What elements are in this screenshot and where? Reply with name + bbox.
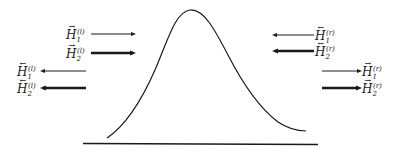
label-right-transmitted-2: →H2(r) [362,83,382,98]
arrow-left-reflected-2 [40,86,86,91]
baseline [83,144,318,145]
arrow-right-transmitted-2 [322,86,362,91]
vector-arrow-icon: → [362,60,372,68]
arrow-left-incident-1 [91,32,136,36]
vector-arrow-icon: ← [315,40,325,48]
vector-arrow-icon: ← [17,60,27,68]
vector-arrow-icon: → [66,42,76,50]
vector-arrow-icon: ← [17,77,27,85]
label-left-reflected-2: ←H2(l) [17,83,36,98]
label-right-incident-2: ←H2(r) [315,46,335,61]
barrier-curve [107,10,306,138]
arrow-right-transmitted-1 [322,69,362,73]
label-left-incident-2: →H2(l) [66,48,85,63]
arrow-right-incident-1 [272,33,314,37]
arrow-left-reflected-1 [40,69,86,73]
barrier-diagram [0,0,401,152]
arrow-left-incident-2 [91,51,136,56]
vector-arrow-icon: → [66,23,76,31]
vector-arrow-icon: → [362,77,372,85]
vector-arrow-icon: ← [315,24,325,32]
arrow-right-incident-2 [272,49,314,54]
